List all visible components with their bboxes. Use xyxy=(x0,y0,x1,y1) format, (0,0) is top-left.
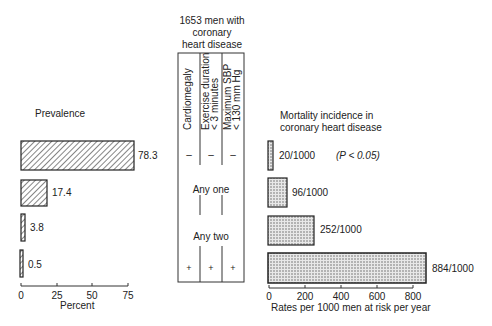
mortality-x-axis xyxy=(269,285,413,288)
table-row-label-any-one: Any one xyxy=(178,184,244,196)
prevalence-value-label: 17.4 xyxy=(52,187,71,199)
prevalence-tick-label: 0 xyxy=(11,290,31,302)
cohort-title-line: coronary xyxy=(176,27,248,39)
mortality-title-line: Mortality incidence in xyxy=(280,110,382,122)
cohort-title: 1653 men with coronary heart disease xyxy=(176,15,248,51)
prevalence-bar-any-one xyxy=(21,180,47,206)
prevalence-value-label: 3.8 xyxy=(30,222,44,234)
table-cell: – xyxy=(222,149,244,161)
prevalence-bars xyxy=(20,141,134,277)
column-header-exercise-line2: < 3 minutes xyxy=(210,78,220,130)
significance-annotation: (P < 0.05) xyxy=(336,150,380,162)
prevalence-tick-label: 75 xyxy=(118,290,138,302)
prevalence-bar-any-two xyxy=(21,214,25,241)
mortality-bars xyxy=(268,141,426,283)
prevalence-x-label: Percent xyxy=(60,300,94,312)
table-cell: – xyxy=(200,149,222,161)
table-row-label-any-two: Any two xyxy=(178,231,244,243)
table-cell: – xyxy=(178,149,200,161)
mortality-title: Mortality incidence in coronary heart di… xyxy=(280,110,382,134)
table-cell: + xyxy=(200,262,222,274)
table-cell: + xyxy=(178,262,200,274)
prevalence-title: Prevalence xyxy=(35,108,85,120)
cohort-title-line: heart disease xyxy=(176,39,248,51)
mortality-title-line: coronary heart disease xyxy=(280,122,382,134)
column-header-cardiomegaly: Cardiomegaly xyxy=(183,68,193,130)
mortality-value-label: 884/1000 xyxy=(432,263,474,275)
mortality-x-label: Rates per 1000 men at risk per year xyxy=(271,302,431,314)
column-header-sbp-line2: < 130 mm Hg xyxy=(232,70,242,130)
prevalence-value-label: 0.5 xyxy=(28,259,42,271)
prevalence-bar-none xyxy=(21,141,134,170)
mortality-value-label: 252/1000 xyxy=(320,224,362,236)
mortality-bar-any-two xyxy=(268,216,314,245)
mortality-value-label: 96/1000 xyxy=(292,187,328,199)
prevalence-x-axis xyxy=(21,283,128,286)
prevalence-bar-all xyxy=(20,250,23,277)
mortality-value-label: 20/1000 xyxy=(279,150,315,162)
cohort-title-line: 1653 men with xyxy=(176,15,248,27)
mortality-bar-all xyxy=(268,253,426,283)
mortality-bar-any-one xyxy=(268,178,287,207)
prevalence-value-label: 78.3 xyxy=(138,150,157,162)
table-cell: + xyxy=(222,262,244,274)
mortality-bar-none xyxy=(268,141,273,170)
